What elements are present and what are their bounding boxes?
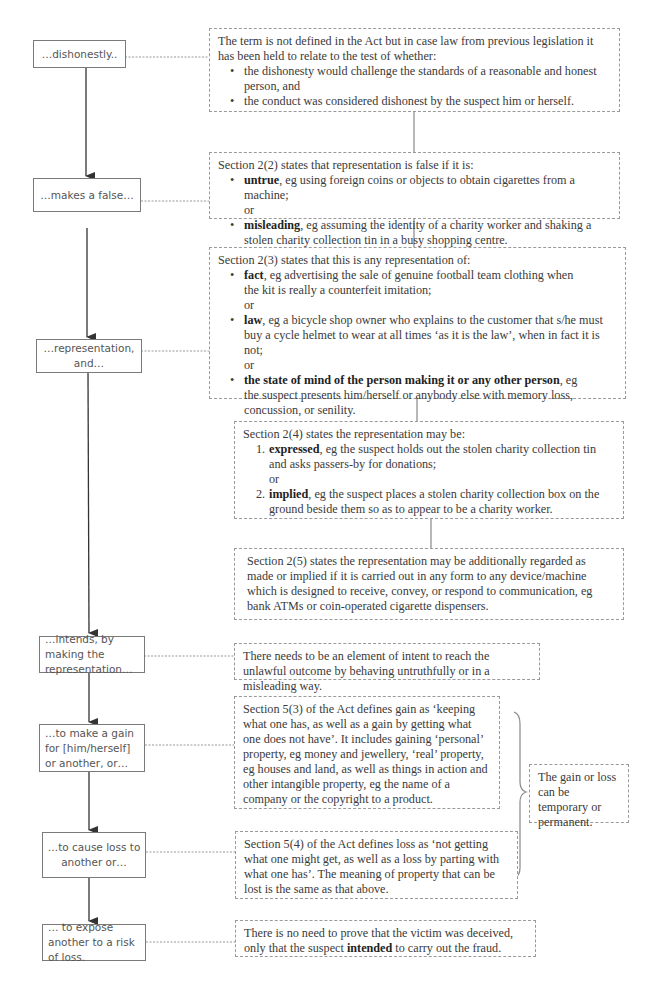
note-text: Section 5(4) of the Act defines loss as … bbox=[244, 837, 509, 897]
term: expressed bbox=[269, 442, 320, 456]
stage-label: …to cause loss to another or… bbox=[47, 840, 141, 870]
stage-label: … to expose another to a risk of loss. bbox=[48, 920, 141, 965]
note-section-5-4: Section 5(4) of the Act defines loss as … bbox=[235, 831, 518, 899]
note-intends: There needs to be an element of intent t… bbox=[234, 643, 540, 680]
or-connector: or bbox=[244, 298, 589, 313]
stage-label: …representation, and… bbox=[41, 341, 137, 371]
note-intro: Section 2(4) states the representation m… bbox=[243, 427, 615, 442]
bullet-item-fact: fact, eg advertising the sale of genuine… bbox=[244, 268, 589, 298]
or-connector: or bbox=[244, 203, 611, 218]
note-text: Section 2(5) states the representation m… bbox=[247, 554, 615, 614]
note-numbered-list: 1.expressed, eg the suspect holds out th… bbox=[243, 442, 615, 517]
stage-cause-loss: …to cause loss to another or… bbox=[42, 832, 146, 878]
term: untrue bbox=[244, 173, 279, 187]
stage-intends: …intends, by making the representation… bbox=[39, 636, 145, 673]
stage-label: …makes a false… bbox=[40, 188, 133, 203]
note-text: There needs to be an element of intent t… bbox=[243, 649, 531, 694]
bullet-item-law: law, eg a bicycle shop owner who explain… bbox=[244, 313, 615, 358]
note-dishonestly: The term is not defined in the Act but i… bbox=[209, 28, 620, 112]
note-section-2-4: Section 2(4) states the representation m… bbox=[234, 421, 624, 519]
note-section-2-2: Section 2(2) states that representation … bbox=[209, 152, 620, 219]
stage-label: …intends, by making the representation… bbox=[45, 632, 140, 677]
stage-representation: …representation, and… bbox=[36, 339, 142, 373]
bullet-item-state-of-mind: the state of mind of the person making i… bbox=[244, 373, 589, 418]
stage-expose-to-risk: … to expose another to a risk of loss. bbox=[42, 924, 146, 961]
note-bullet-list: the dishonesty would challenge the stand… bbox=[218, 64, 611, 109]
note-section-5-3: Section 5(3) of the Act defines gain as … bbox=[234, 696, 500, 809]
note-gain-or-loss: The gain or loss can be temporary or per… bbox=[529, 764, 629, 823]
note-intro: Section 2(2) states that representation … bbox=[218, 158, 611, 173]
note-expose: There is no need to prove that the victi… bbox=[235, 920, 536, 957]
note-text: The gain or loss can be temporary or per… bbox=[538, 770, 620, 830]
note-section-2-5: Section 2(5) states the representation m… bbox=[234, 548, 624, 620]
stage-label: …to make a gain for [him/herself] or ano… bbox=[45, 726, 140, 771]
or-connector: or bbox=[269, 472, 615, 487]
bullet-item: the conduct was considered dishonest by … bbox=[244, 94, 611, 109]
bullet-item-misleading: misleading, eg assuming the identity of … bbox=[244, 218, 611, 248]
stage-dishonestly: …dishonestly.. bbox=[33, 40, 126, 68]
note-intro: Section 2(3) states that this is any rep… bbox=[218, 253, 617, 268]
note-section-2-3: Section 2(3) states that this is any rep… bbox=[209, 247, 626, 399]
stage-make-a-gain: …to make a gain for [him/herself] or ano… bbox=[39, 724, 145, 772]
term: law bbox=[244, 313, 262, 327]
numbered-item-implied: 2.implied, eg the suspect places a stole… bbox=[269, 487, 615, 517]
term: misleading bbox=[244, 218, 300, 232]
note-intro: The term is not defined in the Act but i… bbox=[218, 34, 611, 64]
stage-makes-a-false: …makes a false… bbox=[33, 178, 141, 212]
term: implied bbox=[269, 487, 308, 501]
bullet-item: the dishonesty would challenge the stand… bbox=[244, 64, 611, 94]
note-text: There is no need to prove that the victi… bbox=[244, 926, 527, 956]
stage-label: …dishonestly.. bbox=[42, 47, 118, 62]
or-connector: or bbox=[244, 358, 589, 373]
fraud-by-false-representation-diagram: …dishonestly.. …makes a false… …represen… bbox=[0, 0, 668, 993]
note-text: Section 5(3) of the Act defines gain as … bbox=[243, 702, 491, 807]
bullet-item-untrue: untrue, eg using foreign coins or object… bbox=[244, 173, 611, 203]
term: the state of mind of the person making i… bbox=[244, 373, 560, 387]
term: fact bbox=[244, 268, 264, 282]
note-bullet-list: fact, eg advertising the sale of genuine… bbox=[218, 268, 617, 418]
numbered-item-expressed: 1.expressed, eg the suspect holds out th… bbox=[269, 442, 615, 472]
emphasis-intended: intended bbox=[347, 941, 392, 955]
note-bullet-list: untrue, eg using foreign coins or object… bbox=[218, 173, 611, 248]
